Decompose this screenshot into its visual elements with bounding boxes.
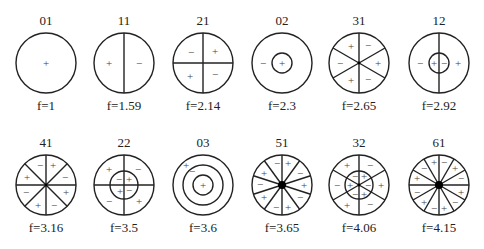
minus-sign: − xyxy=(337,57,343,69)
mode-31: 31+−−++−f=2.65 xyxy=(329,13,389,113)
minus-sign: − xyxy=(37,159,43,171)
mode-label: 02 xyxy=(276,13,289,28)
mode-label: 11 xyxy=(118,13,131,28)
minus-sign: − xyxy=(106,195,112,207)
frequency-label: f=2.65 xyxy=(342,98,376,113)
minus-sign: − xyxy=(458,172,464,184)
minus-sign: − xyxy=(431,202,437,214)
mode-32: 32+−−++−−++−−+f=4.06 xyxy=(329,135,389,235)
plus-sign: + xyxy=(431,57,437,69)
plus-sign: + xyxy=(421,196,427,208)
mode-03: 03+−+f=3.6 xyxy=(173,135,233,235)
plus-sign: + xyxy=(136,195,142,207)
plus-sign: + xyxy=(344,159,350,171)
center-hub xyxy=(278,181,286,189)
minus-sign: − xyxy=(23,186,29,198)
center-dot xyxy=(358,62,361,65)
plus-sign: + xyxy=(414,172,420,184)
minus-sign: − xyxy=(274,157,280,169)
frequency-label: f=3.65 xyxy=(265,220,299,235)
plus-sign: + xyxy=(212,45,218,57)
plus-sign: + xyxy=(50,159,56,171)
minus-sign: − xyxy=(352,188,358,200)
mode-11: 11+−f=1.59 xyxy=(94,13,154,113)
mode-label: 12 xyxy=(433,13,446,28)
mode-41: 41−++−−++−f=3.16 xyxy=(16,135,76,235)
center-hub xyxy=(435,181,443,189)
minus-sign: − xyxy=(212,68,218,80)
minus-sign: − xyxy=(273,201,279,213)
frequency-label: f=3.5 xyxy=(110,220,138,235)
center-dot xyxy=(45,184,48,187)
plus-sign: + xyxy=(375,57,381,69)
mode-01: 01+f=1 xyxy=(16,13,76,113)
frequency-label: f=2.3 xyxy=(268,98,296,113)
mode-label: 01 xyxy=(40,13,53,28)
minus-sign: − xyxy=(334,179,340,191)
plus-sign: + xyxy=(361,188,367,200)
minus-sign: − xyxy=(365,39,371,51)
minus-sign: − xyxy=(414,186,420,198)
plus-sign: + xyxy=(106,57,112,69)
plus-sign: + xyxy=(301,179,307,191)
plus-sign: + xyxy=(285,201,291,213)
minus-sign: − xyxy=(62,171,68,183)
mode-label: 51 xyxy=(276,135,289,150)
minus-sign: − xyxy=(257,178,263,190)
plus-sign: + xyxy=(43,57,49,69)
vibration-modes-diagram: 01+f=111+−f=1.5921−++−f=2.1402−+f=2.331+… xyxy=(0,0,484,249)
plus-sign: + xyxy=(279,57,285,69)
plus-sign: + xyxy=(348,74,354,86)
minus-sign: − xyxy=(135,163,141,175)
plus-sign: + xyxy=(106,163,112,175)
plus-sign: + xyxy=(24,171,30,183)
mode-51: 51−++−−++−−+f=3.65 xyxy=(252,135,312,235)
plus-sign: + xyxy=(378,179,384,191)
mode-label: 31 xyxy=(353,13,366,28)
minus-sign: − xyxy=(365,73,371,85)
plus-sign: + xyxy=(455,57,461,69)
plus-sign: + xyxy=(285,157,291,169)
plus-sign: + xyxy=(200,179,206,191)
minus-sign: − xyxy=(441,57,447,69)
frequency-label: f=3.6 xyxy=(189,220,217,235)
minus-sign: − xyxy=(421,162,427,174)
mode-61: 61+−−++−−++−−+f=4.15 xyxy=(409,135,469,235)
minus-sign: − xyxy=(297,167,303,179)
plus-sign: + xyxy=(35,199,41,211)
frequency-label: f=4.15 xyxy=(422,220,456,235)
minus-sign: − xyxy=(441,156,447,168)
minus-sign: − xyxy=(116,173,122,185)
frequency-label: f=2.14 xyxy=(186,98,221,113)
plus-sign: + xyxy=(441,202,447,214)
minus-sign: − xyxy=(260,57,266,69)
minus-sign: − xyxy=(417,57,423,69)
minus-sign: − xyxy=(297,191,303,203)
minus-sign: − xyxy=(367,198,373,210)
plus-sign: + xyxy=(117,185,123,197)
plus-sign: + xyxy=(344,199,350,211)
minus-sign: − xyxy=(188,46,194,58)
mode-label: 61 xyxy=(433,135,446,150)
mode-22: 22+−−++−−+f=3.5 xyxy=(94,135,154,235)
frequency-label: f=1 xyxy=(37,98,55,113)
frequency-label: f=1.59 xyxy=(107,98,141,113)
mode-21: 21−++−f=2.14 xyxy=(173,13,233,113)
plus-sign: + xyxy=(348,40,354,52)
mode-label: 03 xyxy=(197,135,210,150)
center-dot xyxy=(358,184,361,187)
minus-sign: − xyxy=(136,57,142,69)
frequency-label: f=4.06 xyxy=(342,220,377,235)
minus-sign: − xyxy=(51,199,57,211)
mode-12: 12−+−+f=2.92 xyxy=(409,13,469,113)
frequency-label: f=2.92 xyxy=(422,98,456,113)
minus-sign: − xyxy=(189,165,195,177)
mode-label: 22 xyxy=(118,135,131,150)
plus-sign: + xyxy=(261,191,267,203)
minus-sign: − xyxy=(126,184,132,196)
frequency-label: f=3.16 xyxy=(29,220,64,235)
minus-sign: − xyxy=(452,196,458,208)
mode-label: 32 xyxy=(353,135,366,150)
minus-sign: − xyxy=(367,159,373,171)
plus-sign: + xyxy=(187,70,193,82)
